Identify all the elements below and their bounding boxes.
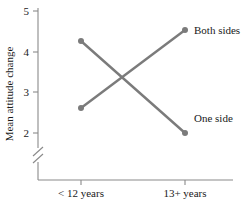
- y-axis-label: Mean attitude change: [3, 47, 15, 142]
- x-category-label-1: < 12 years: [58, 187, 104, 199]
- series-label-one-side: One side: [194, 112, 233, 124]
- data-point-both-sides-lt-12-years: [78, 105, 84, 111]
- y-tick-label-5: 5: [24, 5, 30, 17]
- data-point-both-sides-13-plus-years: [182, 27, 188, 33]
- series-line-both-sides: [81, 30, 185, 108]
- y-tick-label-4: 4: [24, 46, 30, 58]
- x-category-label-2: 13+ years: [163, 187, 206, 199]
- series-label-both-sides: Both sides: [194, 24, 240, 36]
- data-point-one-side-lt-12-years: [78, 38, 84, 44]
- data-point-one-side-13-plus-years: [182, 130, 188, 136]
- series-line-one-side: [81, 41, 185, 133]
- y-tick-label-3: 3: [24, 86, 30, 98]
- y-tick-label-2: 2: [24, 127, 30, 139]
- chart-canvas: 5 4 3 2 Mean attitude change < 12 years …: [0, 0, 242, 204]
- line-chart: 5 4 3 2 Mean attitude change < 12 years …: [0, 0, 242, 204]
